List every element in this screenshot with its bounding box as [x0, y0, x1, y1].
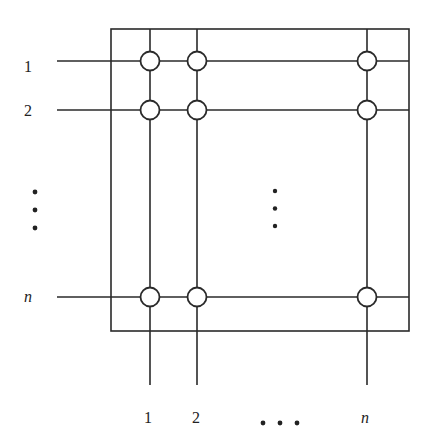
grid-ellipsis-icon	[273, 189, 277, 228]
crosspoint-2-2	[188, 101, 207, 120]
crosspoint-1-2	[188, 52, 207, 71]
crosspoint-n-1	[141, 288, 160, 307]
row-label-2: 2	[24, 102, 32, 119]
column-label-2: 2	[192, 409, 200, 426]
column-ellipsis-icon	[261, 421, 300, 426]
row-label-n: n	[24, 288, 32, 305]
column-label-1: 1	[144, 409, 152, 426]
crosspoint-2-1	[141, 101, 160, 120]
crosspoint-2-n	[358, 101, 377, 120]
crossbar-diagram: 1 2 n 1 2 n	[0, 0, 432, 442]
switch-frame	[111, 29, 409, 331]
crosspoint-1-n	[358, 52, 377, 71]
row-label-1: 1	[24, 58, 32, 75]
crosspoint-n-n	[358, 288, 377, 307]
crosspoint-1-1	[141, 52, 160, 71]
row-ellipsis-icon	[33, 190, 38, 231]
column-label-n: n	[361, 409, 369, 426]
crosspoint-n-2	[188, 288, 207, 307]
